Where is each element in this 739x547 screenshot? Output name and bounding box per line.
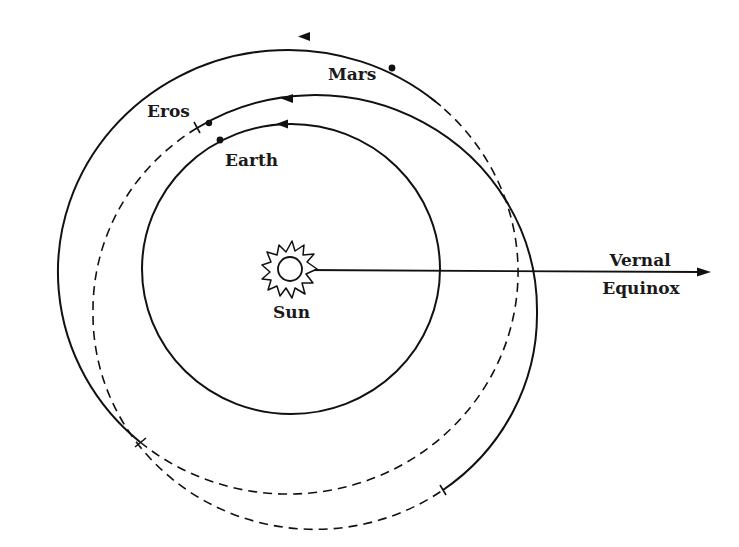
earth-direction-arrow-icon <box>276 120 288 129</box>
earth-position-dot <box>217 137 224 144</box>
earth-label: Earth <box>225 150 278 170</box>
mars-label: Mars <box>328 64 376 84</box>
mars-direction-arrow-icon <box>298 32 310 41</box>
sun-icon <box>262 241 317 298</box>
eros-orbit <box>93 94 537 529</box>
eros-label: Eros <box>147 101 190 121</box>
eros-direction-arrow-icon <box>281 94 293 103</box>
orbit-diagram: Mars Eros Earth Sun Vernal Equinox <box>0 0 739 547</box>
mars-position-dot <box>389 65 396 72</box>
eros-orbit-tick-lower <box>440 485 446 495</box>
sun-label: Sun <box>273 302 310 322</box>
mars-orbit-tick-upper <box>431 98 441 106</box>
vernal-label: Vernal <box>608 250 671 270</box>
eros-position-dot <box>206 120 212 126</box>
equinox-arrow-icon <box>697 268 711 277</box>
equinox-label: Equinox <box>602 278 680 298</box>
